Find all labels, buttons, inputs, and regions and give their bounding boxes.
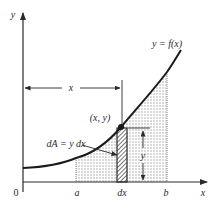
x-axis-label: x	[200, 187, 206, 198]
point-label: (x, y)	[90, 112, 111, 124]
height-label: y	[140, 150, 146, 161]
strip-element-dA	[117, 128, 127, 182]
origin-label: 0	[14, 187, 19, 198]
area-under-curve-diagram: x (x, y) y dA = y dx y = f(x) y 0 a dx b…	[0, 0, 217, 209]
strip-label: dA = y dx	[46, 138, 86, 149]
point-marker	[118, 124, 124, 130]
x-distance-label: x	[68, 82, 74, 93]
strip-width-label: dx	[117, 187, 127, 198]
curve-label: y = f(x)	[151, 38, 183, 50]
lower-bound-label: a	[75, 187, 80, 198]
upper-bound-label: b	[164, 187, 169, 198]
y-axis-label: y	[10, 9, 16, 20]
